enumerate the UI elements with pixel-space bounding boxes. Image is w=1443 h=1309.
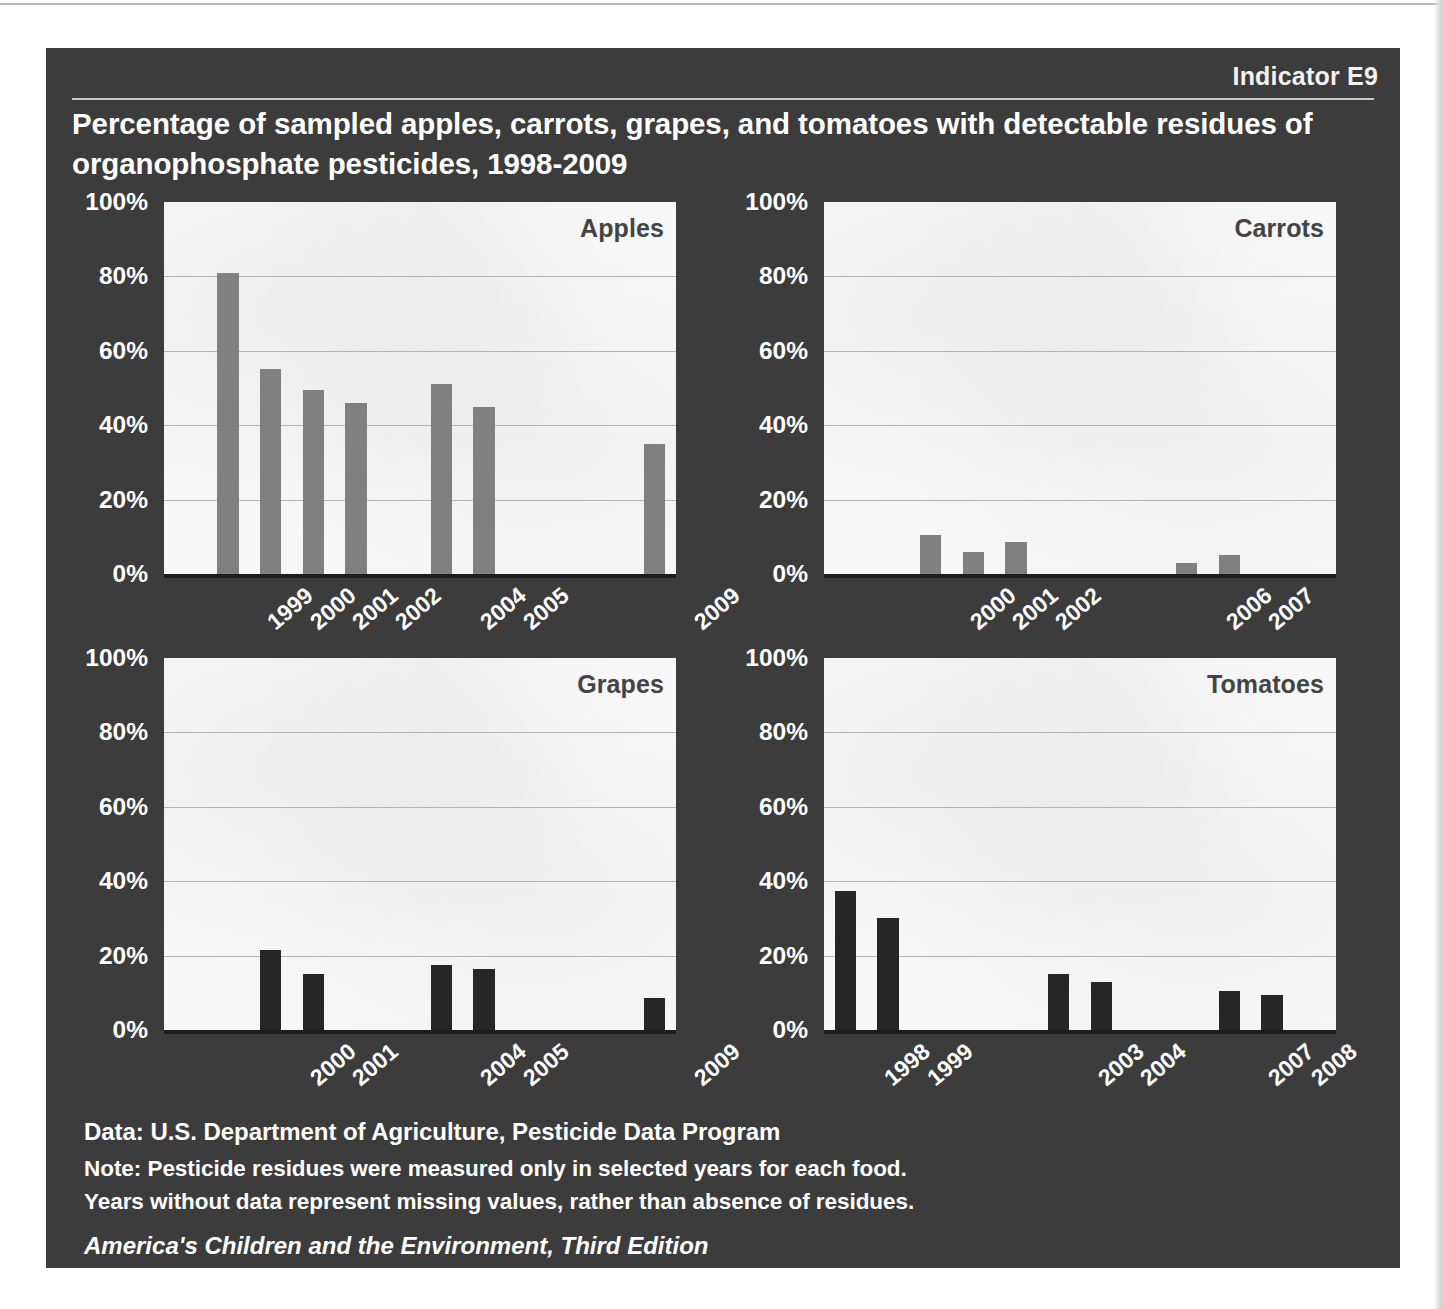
y-tick-label: 40%	[759, 867, 808, 895]
x-axis-labels-grapes: 20002001200420052009	[164, 1036, 676, 1098]
plot-area-apples: Apples	[164, 202, 676, 578]
bar	[1005, 542, 1026, 574]
figure-panel: Indicator E9 Percentage of sampled apple…	[46, 48, 1400, 1268]
x-tick-label: 1999	[262, 582, 319, 636]
y-tick-label: 100%	[85, 644, 148, 672]
y-tick-label: 60%	[99, 337, 148, 365]
x-tick-label: 2007	[1263, 582, 1320, 636]
plot-area-carrots: Carrots	[824, 202, 1336, 578]
y-tick-label: 80%	[99, 718, 148, 746]
bar	[1091, 982, 1112, 1030]
y-tick-label: 40%	[759, 411, 808, 439]
bar	[217, 273, 238, 574]
y-tick-label: 0%	[113, 1016, 148, 1044]
bar	[303, 390, 324, 574]
bar	[920, 535, 941, 574]
y-tick-label: 0%	[773, 560, 808, 588]
x-tick-label: 2001	[347, 1038, 404, 1092]
charts-grid: 100%80%60%40%20%0%Apples1999200020012002…	[46, 194, 1400, 1104]
x-tick-label: 2002	[1050, 582, 1107, 636]
chart-panel-carrots: 100%80%60%40%20%0%Carrots200020012002200…	[718, 194, 1369, 642]
plot-area-grapes: Grapes	[164, 658, 676, 1034]
bar	[1176, 563, 1197, 574]
indicator-label: Indicator E9	[1233, 62, 1379, 91]
bar-series-carrots	[824, 202, 1336, 574]
y-tick-label: 0%	[113, 560, 148, 588]
footer-note-line-1: Note: Pesticide residues were measured o…	[84, 1152, 1364, 1185]
y-tick-label: 60%	[759, 793, 808, 821]
y-tick-label: 40%	[99, 411, 148, 439]
y-tick-label: 80%	[759, 718, 808, 746]
bar	[345, 403, 366, 574]
y-tick-label: 20%	[759, 942, 808, 970]
chart-panel-apples: 100%80%60%40%20%0%Apples1999200020012002…	[58, 194, 709, 642]
x-tick-label: 2008	[1306, 1038, 1363, 1092]
figure-title: Percentage of sampled apples, carrots, g…	[72, 104, 1378, 185]
bar	[1219, 991, 1240, 1030]
y-tick-label: 40%	[99, 867, 148, 895]
y-tick-label: 100%	[745, 644, 808, 672]
footer-publication: America's Children and the Environment, …	[84, 1232, 1364, 1260]
bar	[644, 444, 665, 574]
y-tick-label: 100%	[85, 188, 148, 216]
y-axis-labels-carrots: 100%80%60%40%20%0%	[718, 194, 816, 574]
bar	[644, 998, 665, 1030]
chart-panel-grapes: 100%80%60%40%20%0%Grapes2000200120042005…	[58, 650, 709, 1098]
y-axis-labels-grapes: 100%80%60%40%20%0%	[58, 650, 156, 1030]
y-tick-label: 60%	[759, 337, 808, 365]
x-axis-labels-tomatoes: 199819992003200420072008	[824, 1036, 1336, 1098]
x-axis-labels-apples: 1999200020012002200420052009	[164, 580, 676, 642]
y-tick-label: 80%	[759, 262, 808, 290]
bar	[431, 384, 452, 574]
y-tick-label: 20%	[99, 942, 148, 970]
page-right-edge-shadow	[1434, 0, 1443, 1309]
x-tick-label: 1999	[922, 1038, 979, 1092]
y-tick-label: 60%	[99, 793, 148, 821]
footer-note-line-2: Years without data represent missing val…	[84, 1185, 1364, 1218]
bar	[473, 407, 494, 574]
x-tick-label: 2004	[1135, 1038, 1192, 1092]
bar	[835, 891, 856, 1031]
bar-series-grapes	[164, 658, 676, 1030]
y-tick-label: 20%	[759, 486, 808, 514]
y-axis-labels-apples: 100%80%60%40%20%0%	[58, 194, 156, 574]
x-tick-label: 2005	[518, 1038, 575, 1092]
footer-data-source: Data: U.S. Department of Agriculture, Pe…	[84, 1114, 1364, 1150]
y-axis-labels-tomatoes: 100%80%60%40%20%0%	[718, 650, 816, 1030]
bar	[1261, 995, 1282, 1030]
x-tick-label: 2002	[390, 582, 447, 636]
bar	[303, 974, 324, 1030]
bar	[260, 950, 281, 1030]
plot-area-tomatoes: Tomatoes	[824, 658, 1336, 1034]
bar	[877, 918, 898, 1030]
chart-panel-tomatoes: 100%80%60%40%20%0%Tomatoes19981999200320…	[718, 650, 1369, 1098]
bar-series-apples	[164, 202, 676, 574]
bar-series-tomatoes	[824, 658, 1336, 1030]
y-tick-label: 0%	[773, 1016, 808, 1044]
bar	[473, 969, 494, 1030]
bar	[431, 965, 452, 1030]
y-tick-label: 20%	[99, 486, 148, 514]
figure-footer: Data: U.S. Department of Agriculture, Pe…	[84, 1114, 1364, 1260]
y-tick-label: 80%	[99, 262, 148, 290]
x-axis-labels-carrots: 20002001200220062007	[824, 580, 1336, 642]
bar	[1048, 974, 1069, 1030]
bar	[963, 552, 984, 574]
bar	[1219, 555, 1240, 574]
page-top-rule	[0, 3, 1443, 5]
y-tick-label: 100%	[745, 188, 808, 216]
header-divider	[72, 98, 1374, 100]
bar	[260, 369, 281, 574]
x-tick-label: 2005	[518, 582, 575, 636]
